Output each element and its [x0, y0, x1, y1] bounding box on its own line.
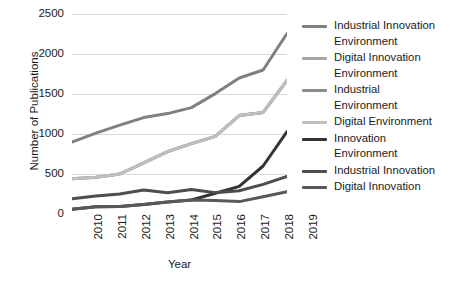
legend-item[interactable]: Industrial Environment	[302, 82, 457, 113]
legend-item-label: Industrial Innovation	[334, 163, 435, 179]
series-line	[72, 176, 287, 198]
legend-item-label: Digital Innovation	[334, 179, 421, 195]
plot-svg	[72, 14, 287, 214]
publications-line-chart: Number of Publications 25002000150010005…	[0, 0, 457, 283]
x-axis-tick-label: 2011	[116, 214, 128, 254]
y-axis-tick-labels: 25002000150010005000	[20, 0, 64, 283]
legend-item-label: Innovation Environment	[334, 131, 397, 162]
legend-item[interactable]: Industrial Innovation	[302, 163, 457, 179]
x-axis-tick-label: 2012	[140, 214, 152, 254]
legend-item[interactable]: Innovation Environment	[302, 131, 457, 162]
legend-item[interactable]: Digital Innovation	[302, 179, 457, 195]
legend-color-swatch	[302, 170, 327, 173]
chart-legend: Industrial Innovation EnvironmentDigital…	[302, 18, 457, 196]
legend-color-swatch	[302, 25, 327, 28]
legend-color-swatch	[302, 121, 327, 124]
legend-item-label: Digital Environment	[334, 114, 432, 130]
y-axis-tick-label: 2000	[20, 48, 64, 60]
legend-item-label: Industrial Innovation Environment	[334, 18, 435, 49]
series-line	[72, 34, 287, 142]
y-axis-tick-label: 0	[20, 208, 64, 220]
legend-color-swatch	[302, 89, 327, 92]
legend-color-swatch	[302, 138, 327, 141]
legend-item-label: Digital Innovation Environment	[334, 50, 421, 81]
y-axis-tick-label: 2500	[20, 8, 64, 20]
x-axis-tick-labels: 2010201120122013201420152016201720182019	[72, 214, 287, 260]
legend-item[interactable]: Digital Innovation Environment	[302, 50, 457, 81]
x-axis-tick-label: 2017	[259, 214, 271, 254]
x-axis-tick-label: 2018	[283, 214, 295, 254]
legend-color-swatch	[302, 57, 327, 60]
x-axis-tick-label: 2016	[235, 214, 247, 254]
legend-item[interactable]: Industrial Innovation Environment	[302, 18, 457, 49]
x-axis-tick-label: 2013	[164, 214, 176, 254]
x-axis-tick-label: 2015	[211, 214, 223, 254]
x-axis-tick-label: 2010	[92, 214, 104, 254]
x-axis-tick-label: 2014	[188, 214, 200, 254]
y-axis-tick-label: 1500	[20, 88, 64, 100]
y-axis-tick-label: 500	[20, 168, 64, 180]
legend-color-swatch	[302, 186, 327, 189]
x-axis-title: Year	[72, 258, 287, 270]
legend-item[interactable]: Digital Environment	[302, 114, 457, 130]
x-axis-tick-label: 2019	[307, 214, 319, 254]
plot-area	[72, 14, 287, 214]
legend-item-label: Industrial Environment	[334, 82, 397, 113]
y-axis-tick-label: 1000	[20, 128, 64, 140]
